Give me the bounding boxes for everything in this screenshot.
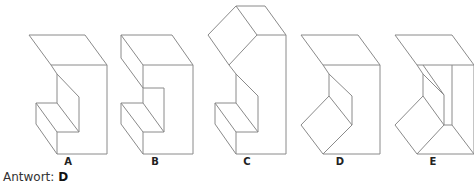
figure-b xyxy=(121,35,193,154)
figure-a xyxy=(29,35,107,154)
figure-c xyxy=(208,6,286,154)
figure-label-b: B xyxy=(145,156,165,167)
figure-b-step-diagonal xyxy=(121,103,143,132)
figure-label-a: A xyxy=(58,156,78,167)
figure-e-diamond-face xyxy=(395,96,444,154)
figure-a-front-outline xyxy=(57,65,107,154)
figure-e xyxy=(395,35,474,154)
figure-label-e: E xyxy=(423,156,443,167)
figure-b-step xyxy=(121,103,143,154)
figures-diagram xyxy=(0,0,474,160)
figure-b-notch xyxy=(143,88,164,154)
figure-b-upper-left-face xyxy=(121,35,143,88)
figure-a-top-face xyxy=(29,35,107,65)
figure-e-inner-diagonal xyxy=(417,65,444,125)
figure-c-top-inner xyxy=(208,35,286,65)
figure-b-top-face xyxy=(121,35,193,65)
figure-d-top-face xyxy=(301,35,380,65)
answer-prefix: Antwort: xyxy=(3,170,54,184)
figure-e-top-face xyxy=(395,35,474,65)
answer-line: Antwort: D xyxy=(3,170,68,184)
figure-c-front-outline xyxy=(236,35,286,154)
figure-e-front-outline xyxy=(417,65,474,154)
figure-e-fold-line xyxy=(423,65,444,95)
figure-b-step-edge xyxy=(143,103,164,132)
figure-c-inner xyxy=(229,65,258,154)
figure-d-diamond-face xyxy=(301,96,352,154)
figure-d-inner-diagonal xyxy=(323,65,352,125)
answer-value: D xyxy=(58,170,68,184)
figure-e-floor-diagonal xyxy=(452,125,474,154)
figure-c-top-ridge xyxy=(236,6,257,35)
figure-label-d: D xyxy=(330,156,350,167)
figure-d xyxy=(301,35,380,154)
figure-a-step-edge xyxy=(57,103,79,132)
figure-a-inner xyxy=(51,65,79,154)
figure-b-front-outline xyxy=(143,65,193,154)
figure-label-c: C xyxy=(237,156,257,167)
figure-c-step-edge xyxy=(236,103,258,132)
